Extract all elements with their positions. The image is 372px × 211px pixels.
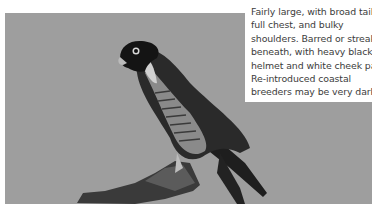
- caption-line: shoulders. Barred or streaked: [251, 32, 372, 45]
- caption-line: Fairly large, with broad tail,: [251, 5, 372, 18]
- caption-line: full chest, and bulky: [251, 18, 372, 31]
- caption-line: helmet and white cheek patch.: [251, 59, 372, 72]
- caption-line: breeders may be very dark.: [251, 85, 372, 98]
- caption-line: beneath, with heavy black: [251, 45, 372, 58]
- caption-line: Re-introduced coastal: [251, 72, 372, 85]
- caption-box: Fairly large, with broad tail, full ches…: [245, 0, 372, 102]
